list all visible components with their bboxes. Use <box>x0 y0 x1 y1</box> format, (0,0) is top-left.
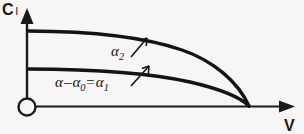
alpha1-lead-symbol: α <box>55 74 63 90</box>
y-axis-label: Cl <box>2 2 18 18</box>
y-axis-arrowhead <box>21 8 34 24</box>
y-axis-label-subscript: l <box>14 5 18 17</box>
figure-canvas: Cl V α2 α–α0=α1 <box>0 0 304 134</box>
alpha2-symbol: α <box>111 43 119 59</box>
origin-circle-marker <box>19 99 36 116</box>
alpha2-subscript: 2 <box>119 51 124 62</box>
alpha1-equals-operator: = <box>85 74 95 90</box>
annotation-alpha2: α2 <box>111 44 124 62</box>
x-axis-arrowhead <box>279 101 295 113</box>
annotation-alpha1: α–α0=α1 <box>55 75 109 93</box>
alpha1-result-symbol: α <box>96 74 104 90</box>
x-axis-label: V <box>284 118 295 134</box>
y-axis-label-main: C <box>2 1 14 18</box>
plot-svg <box>0 0 304 134</box>
alpha1-minus-operator: – <box>63 74 73 90</box>
alpha1-result-subscript: 1 <box>104 82 109 93</box>
